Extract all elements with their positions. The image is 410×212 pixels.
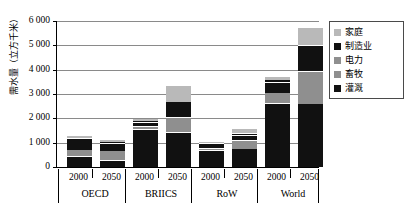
legend-item-灌溉: 灌溉 xyxy=(334,81,403,95)
gridline xyxy=(57,21,319,22)
legend-swatch-icon xyxy=(334,43,341,50)
bar-segment-灌溉 xyxy=(166,133,191,167)
y-axis-tick-label: 6 000 xyxy=(2,16,50,26)
bar-segment-灌溉 xyxy=(265,104,290,167)
legend-swatch-icon xyxy=(334,85,341,92)
y-axis-tick-label: 3 000 xyxy=(2,89,50,99)
bar-World-2050 xyxy=(298,28,323,167)
legend-swatch-icon xyxy=(334,57,341,64)
y-axis-tick-label: 4 000 xyxy=(2,65,50,75)
bar-segment-电力 xyxy=(166,106,191,117)
y-axis-tick-label: 0 xyxy=(2,162,50,172)
y-axis-tick-label: 2 000 xyxy=(2,113,50,123)
bar-segment-家庭 xyxy=(166,86,191,102)
bar-segment-电力 xyxy=(298,53,323,71)
y-axis-tick xyxy=(53,45,57,46)
chart-legend: 家庭制造业电力畜牧灌溉 xyxy=(329,21,404,99)
bar-segment-畜牧 xyxy=(166,118,191,133)
y-axis-tick xyxy=(53,118,57,119)
bar-BRIICS-2050 xyxy=(166,86,191,167)
bar-BRIICS-2000 xyxy=(133,119,158,167)
legend-item-家庭: 家庭 xyxy=(334,25,403,39)
gridline xyxy=(57,70,319,71)
bar-segment-畜牧 xyxy=(298,72,323,104)
x-axis-line xyxy=(57,167,319,168)
y-axis-tick xyxy=(53,94,57,95)
bar-segment-灌溉 xyxy=(232,149,257,167)
legend-item-畜牧: 畜牧 xyxy=(334,67,403,81)
bar-segment-畜牧 xyxy=(265,93,290,103)
legend-label: 畜牧 xyxy=(345,70,363,79)
bar-segment-灌溉 xyxy=(67,157,92,167)
x-axis-group-label-BRIICS: BRIICS xyxy=(126,188,196,199)
bar-segment-畜牧 xyxy=(232,141,257,149)
bar-segment-灌溉 xyxy=(298,104,323,167)
bar-OECD-2050 xyxy=(100,140,125,167)
legend-swatch-icon xyxy=(334,71,341,78)
legend-item-电力: 电力 xyxy=(334,53,403,67)
y-axis-tick xyxy=(53,21,57,22)
plot-area xyxy=(56,21,319,167)
x-axis-year-label: 2050 xyxy=(290,172,330,182)
bar-OECD-2000 xyxy=(67,136,92,167)
legend-label: 灌溉 xyxy=(345,84,363,93)
legend-swatch-icon xyxy=(334,29,341,36)
bar-RoW-2050 xyxy=(232,129,257,167)
gridline xyxy=(57,45,319,46)
legend-label: 制造业 xyxy=(345,42,372,51)
x-axis-group-label-RoW: RoW xyxy=(192,188,262,199)
y-axis-tick-label: 1 000 xyxy=(2,138,50,148)
legend-item-制造业: 制造业 xyxy=(334,39,403,53)
y-axis-tick xyxy=(53,143,57,144)
y-axis-tick xyxy=(53,70,57,71)
legend-label: 家庭 xyxy=(345,28,363,37)
bar-RoW-2000 xyxy=(199,142,224,167)
x-axis-group-label-World: World xyxy=(258,188,328,199)
y-axis-tick-label: 5 000 xyxy=(2,40,50,50)
bar-segment-畜牧 xyxy=(100,151,125,160)
x-axis-group-label-OECD: OECD xyxy=(60,188,130,199)
bar-segment-电力 xyxy=(100,144,125,151)
bar-segment-灌溉 xyxy=(133,130,158,167)
legend-label: 电力 xyxy=(345,56,363,65)
bar-segment-电力 xyxy=(67,140,92,149)
bar-segment-制造业 xyxy=(298,46,323,53)
bar-segment-电力 xyxy=(265,83,290,93)
bar-segment-家庭 xyxy=(298,28,323,45)
bar-segment-灌溉 xyxy=(199,151,224,167)
bar-World-2000 xyxy=(265,77,290,167)
bar-chart: 需水量（立方千米） 6 0005 0004 0003 0002 0001 000… xyxy=(0,0,410,212)
